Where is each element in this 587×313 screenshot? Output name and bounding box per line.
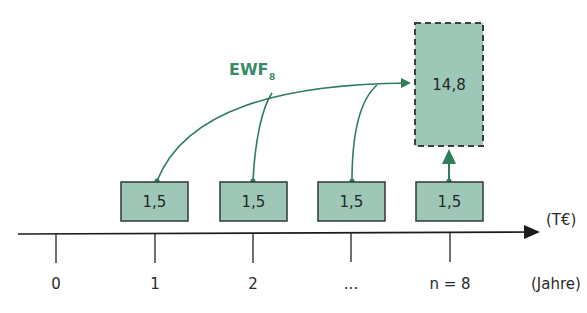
final-payment-arrow	[442, 149, 456, 181]
future-value-box: 14,8	[415, 23, 483, 146]
tick-label-0: 0	[51, 275, 61, 293]
tick-label-n: n = 8	[429, 275, 470, 293]
time-unit-label: (Jahre)	[531, 275, 581, 293]
ewf-label: EWF 8	[229, 60, 275, 82]
tick-label-1: 1	[150, 275, 160, 293]
arc-from-year-1	[157, 83, 409, 181]
axis-ticks	[56, 233, 450, 263]
tick-label-2: 2	[248, 275, 258, 293]
payment-value: 1,5	[340, 193, 364, 211]
payment-box-2: 1,5	[220, 182, 287, 221]
payment-value: 1,5	[242, 193, 266, 211]
arc-anchor-dots	[155, 179, 452, 184]
ewf-text: EWF	[229, 60, 269, 79]
payment-value: 1,5	[143, 193, 167, 211]
ewf-subscript: 8	[269, 72, 275, 82]
arc-from-year-ellipsis	[352, 85, 377, 181]
payment-box-1: 1,5	[121, 182, 188, 221]
payment-box-4: 1,5	[416, 182, 483, 221]
tick-label-ellipsis: ...	[344, 275, 358, 293]
compounding-arcs	[157, 83, 409, 181]
tick-labels: 0 1 2 ... n = 8	[51, 275, 470, 293]
arc-from-year-2	[253, 93, 272, 181]
time-axis	[18, 232, 538, 263]
payment-value: 1,5	[438, 193, 462, 211]
payment-box-3: 1,5	[318, 182, 385, 221]
value-unit-label: (T€)	[546, 211, 576, 229]
future-value-text: 14,8	[432, 76, 465, 94]
cash-flow-diagram: 14,8 EWF 8 1,5 1,5 1,5 1,5 (T€)	[0, 0, 587, 313]
